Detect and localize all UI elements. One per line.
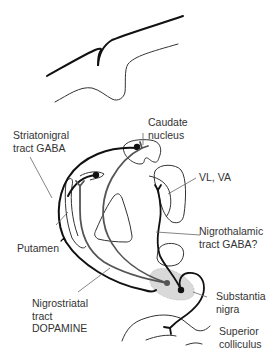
- label-nigrostriatal-tract: NigrostriataltractDOPAMINE: [32, 297, 88, 335]
- label-striatonigral-line2: tract GABA: [13, 142, 69, 155]
- label-caudate-line1: Caudate: [148, 116, 188, 129]
- red-nucleus-outline: [157, 243, 184, 266]
- label-nigrothalamic-line2: tract GABA?: [199, 238, 263, 251]
- label-putamen: Putamen: [17, 242, 59, 255]
- label-striatonigral-line1: Striatonigral: [13, 129, 69, 142]
- globus-pallidus-outline: [95, 194, 132, 242]
- caudate-nucleus-outline: [123, 140, 160, 164]
- nigrostriatal-tract: [76, 142, 167, 283]
- label-nigrostriatal-line2: tract: [32, 310, 88, 323]
- label-substantia-line2: nigra: [216, 303, 266, 316]
- putamen-outline: [65, 179, 86, 248]
- label-nigrostriatal-line1: Nigrostriatal: [32, 297, 88, 310]
- label-superior-line2: colliculus: [219, 338, 262, 351]
- label-caudate-nucleus: Caudatenucleus: [148, 116, 188, 141]
- label-nigrostriatal-line3: DOPAMINE: [32, 322, 88, 335]
- label-caudate-line2: nucleus: [148, 129, 188, 142]
- striatonigral-cell-body-putamen: [93, 172, 99, 178]
- label-pointers: [30, 133, 207, 297]
- basal-ganglia-diagram: Caudatenucleus Striatonigraltract GABA V…: [0, 0, 280, 362]
- label-striatonigral-tract: Striatonigraltract GABA: [13, 129, 69, 154]
- midbrain-contours: [122, 315, 210, 345]
- cortex-surface: [47, 16, 183, 102]
- nigrostriatal-cell-body: [164, 280, 170, 286]
- label-nigrothalamic-tract: Nigrothalamictract GABA?: [199, 225, 263, 250]
- label-superior-colliculus: Superiorcolliculus: [219, 325, 262, 350]
- label-superior-line1: Superior: [219, 325, 262, 338]
- striatonigral-tract: [59, 148, 156, 297]
- label-substantia-line1: Substantia: [216, 290, 266, 303]
- label-vl-va: VL, VA: [199, 171, 231, 184]
- label-nigrothalamic-line1: Nigrothalamic: [199, 225, 263, 238]
- label-substantia-nigra: Substantianigra: [216, 290, 266, 315]
